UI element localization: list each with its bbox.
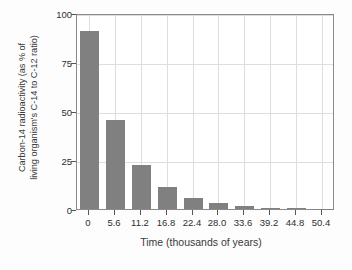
- y-tick-label-50: 50: [38, 107, 72, 118]
- x-tick-mark-22.4: [192, 210, 193, 215]
- gridline-vertical-39.2: [270, 15, 271, 209]
- bar-50.4: [313, 209, 332, 210]
- x-tick-label-50.4: 50.4: [301, 217, 341, 228]
- carbon-14-decay-chart: Carbon-14 radioactivity (as % of living …: [0, 0, 352, 270]
- gridline-vertical-50.4: [322, 15, 323, 209]
- gridline-vertical-16.8: [167, 15, 168, 209]
- x-tick-mark-28.0: [217, 210, 218, 215]
- x-tick-mark-44.8: [295, 210, 296, 215]
- bar-11.2: [132, 165, 151, 210]
- x-tick-mark-0: [88, 210, 89, 215]
- y-tick-label-75: 75: [38, 58, 72, 69]
- bar-44.8: [287, 208, 306, 209]
- bar-16.8: [158, 187, 177, 209]
- y-tick-mark-0: [71, 210, 76, 211]
- bar-39.2: [261, 208, 280, 209]
- gridline-vertical-44.8: [296, 15, 297, 209]
- x-tick-mark-16.8: [166, 210, 167, 215]
- bar-28.0: [209, 203, 228, 209]
- bar-0: [80, 31, 99, 209]
- gridline-vertical-28.0: [218, 15, 219, 209]
- x-tick-mark-33.6: [243, 210, 244, 215]
- x-axis-title: Time (thousands of years): [56, 236, 346, 248]
- bar-33.6: [235, 206, 254, 209]
- plot-area: [76, 14, 334, 210]
- bar-22.4: [184, 198, 203, 209]
- gridline-vertical-33.6: [244, 15, 245, 209]
- y-tick-label-100: 100: [38, 9, 72, 20]
- gridline-vertical-22.4: [193, 15, 194, 209]
- bar-5.6: [106, 120, 125, 209]
- x-tick-mark-50.4: [321, 210, 322, 215]
- x-tick-mark-39.2: [269, 210, 270, 215]
- x-tick-mark-11.2: [140, 210, 141, 215]
- y-axis-title-line1: Carbon-14 radioactivity (as % of: [17, 43, 27, 172]
- x-tick-mark-5.6: [114, 210, 115, 215]
- y-tick-label-0: 0: [38, 205, 72, 216]
- y-tick-label-25: 25: [38, 156, 72, 167]
